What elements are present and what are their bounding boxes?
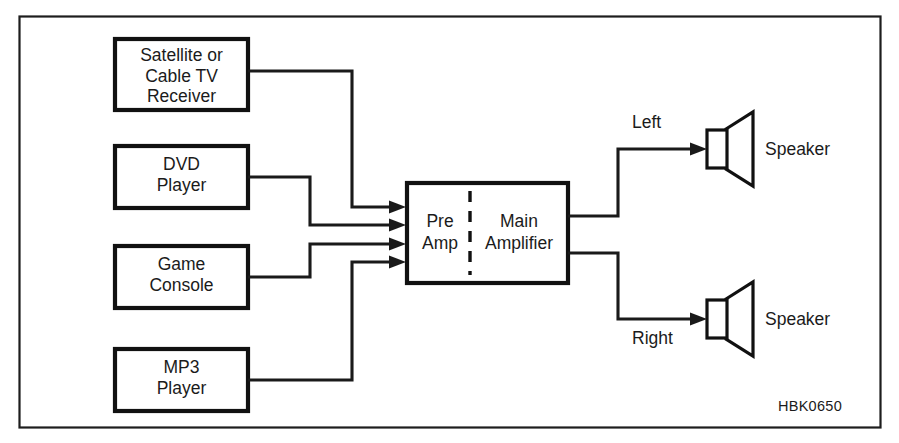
- figure-root: Satellite or Cable TV Receiver DVD Playe…: [0, 0, 899, 443]
- speaker-right-label: Speaker: [765, 309, 830, 329]
- preamp-label-line: Amp: [422, 233, 458, 253]
- figure-code-label: HBK0650: [778, 398, 842, 414]
- source-box-dvd-player: DVD Player: [115, 146, 248, 208]
- source-box-game-console: Game Console: [115, 246, 248, 308]
- source-label-line: Satellite or: [140, 45, 223, 65]
- block-diagram: Satellite or Cable TV Receiver DVD Playe…: [0, 0, 899, 443]
- left-channel-label: Left: [632, 112, 661, 132]
- source-label-line: Game: [158, 254, 206, 274]
- source-label-line: Cable TV: [145, 66, 218, 86]
- source-label-line: Console: [149, 275, 213, 295]
- preamp-label-line: Pre: [426, 211, 453, 231]
- source-box-mp3-player: MP3 Player: [115, 349, 248, 411]
- amplifier-block: Pre Amp Main Amplifier: [407, 183, 568, 283]
- speaker-left-label: Speaker: [765, 139, 830, 159]
- source-label-line: Player: [157, 175, 207, 195]
- source-label-line: Player: [157, 378, 207, 398]
- main-amp-label-line: Main: [500, 211, 538, 231]
- source-label-line: MP3: [164, 357, 200, 377]
- source-label-line: DVD: [163, 154, 200, 174]
- source-label-line: Receiver: [147, 86, 216, 106]
- source-box-satellite-cable-tv-receiver: Satellite or Cable TV Receiver: [115, 39, 248, 110]
- main-amp-label-line: Amplifier: [485, 233, 553, 253]
- right-channel-label: Right: [632, 328, 673, 348]
